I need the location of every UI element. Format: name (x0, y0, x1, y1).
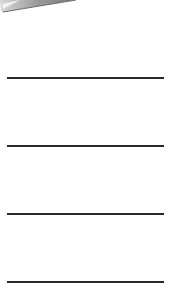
ruled-line-4 (7, 281, 164, 283)
ruled-line-3 (7, 213, 164, 215)
ruled-line-1 (7, 77, 164, 79)
ruled-line-2 (7, 145, 164, 147)
folded-page-corner-icon (0, 0, 80, 14)
